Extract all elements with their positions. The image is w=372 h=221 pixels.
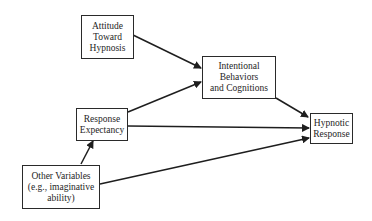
edge-other-to-expectancy [81,141,93,164]
path-diagram: Attitude Toward Hypnosis Intentional Beh… [0,0,372,221]
node-label-line: ability) [28,193,94,204]
node-label-line: Expectancy [80,125,124,136]
node-label-line: Other Variables [28,171,94,182]
edge-attitude-to-intentional [133,35,201,68]
node-label-line: Behaviors [210,72,268,83]
node-label-line: Hypnotic [313,118,349,129]
node-label-line: Response [313,129,349,140]
node-label-line: Attitude [90,21,126,32]
edge-intentional-to-hypnotic [276,98,308,117]
node-hypnotic-response: Hypnotic Response [310,113,353,144]
edge-expectancy-to-hypnotic [128,126,309,128]
node-label-line: (e.g., imaginative [28,182,94,193]
node-attitude-toward-hypnosis: Attitude Toward Hypnosis [81,15,134,59]
node-label-line: and Cognitions [210,83,268,94]
edge-other-to-hypnotic [100,138,309,184]
node-other-variables: Other Variables (e.g., imaginative abili… [22,165,100,209]
node-label-line: Response [80,114,124,125]
edge-expectancy-to-intentional [128,82,201,112]
node-label-line: Intentional [210,61,268,72]
node-label-line: Toward [90,32,126,43]
node-response-expectancy: Response Expectancy [76,108,128,141]
node-label-line: Hypnosis [90,43,126,54]
node-intentional-behaviors: Intentional Behaviors and Cognitions [202,56,276,99]
